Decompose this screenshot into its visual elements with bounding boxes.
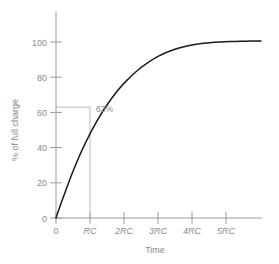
charging-curve-chart: 0 20 40 60 80 100 0 RC 2RC 3RC 4RC 5RC 6…	[0, 0, 279, 264]
x-tick-label-4rc: 4RC	[183, 226, 202, 236]
y-tick-label-60: 60	[37, 108, 47, 118]
x-axis-title: Time	[145, 245, 165, 255]
x-tick-label-2rc: 2RC	[114, 226, 134, 236]
annotation-label-63-percent: 63%	[96, 104, 113, 114]
x-tick-label-3rc: 3RC	[149, 226, 168, 236]
y-tick-label-20: 20	[37, 178, 47, 188]
y-tick-label-0: 0	[42, 214, 47, 224]
y-tick-label-80: 80	[37, 73, 47, 83]
x-tick-label-0: 0	[53, 226, 58, 236]
y-axis-title: % of full charge	[10, 99, 20, 161]
x-tick-label-rc: RC	[84, 226, 97, 236]
y-tick-label-100: 100	[32, 38, 47, 48]
x-tick-label-5rc: 5RC	[217, 226, 236, 236]
charge-curve-line	[56, 41, 261, 218]
y-tick-label-40: 40	[37, 143, 47, 153]
chart-figure: 0 20 40 60 80 100 0 RC 2RC 3RC 4RC 5RC 6…	[0, 0, 279, 264]
